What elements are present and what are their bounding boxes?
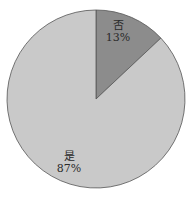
slice-percent-no: 13% (103, 32, 133, 44)
slice-label-yes: 是 87% (54, 151, 84, 175)
pie-chart (0, 0, 190, 197)
slice-label-no: 否 13% (103, 20, 133, 44)
slice-percent-yes: 87% (54, 163, 84, 175)
